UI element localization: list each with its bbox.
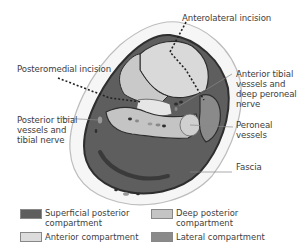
legend-label-deep-posterior-2: compartment [176, 218, 233, 228]
legend-swatch-superficial-posterior [20, 209, 42, 219]
label-anterior-tibial-4: nerve [236, 99, 260, 109]
label-peroneal-1: Peroneal [236, 120, 272, 130]
label-anterior-tibial-2: vessels and [236, 79, 285, 89]
label-anterolateral-incision: Anterolateral incision [182, 13, 271, 23]
legend-label-anterior: Anterior compartment [45, 232, 138, 242]
label-posterior-tibial-2: vessels and [17, 125, 66, 135]
label-anterior-tibial-1: Anterior tibial [236, 69, 293, 79]
label-anterior-tibial-3: deep peroneal [236, 89, 297, 99]
label-peroneal-2: vessels [236, 130, 267, 140]
label-posterior-tibial-1: Posterior tibial [17, 115, 77, 125]
legend-label-lateral: Lateral compartment [176, 232, 265, 242]
legend-label-superficial-posterior-1: Superficial posterior [45, 208, 129, 218]
legend-swatch-anterior [20, 232, 42, 242]
label-posteromedial-incision: Posteromedial incision [17, 64, 111, 74]
legend-label-deep-posterior-1: Deep posterior [176, 208, 238, 218]
label-fascia: Fascia [236, 162, 262, 172]
label-posterior-tibial-3: tibial nerve [17, 135, 64, 145]
legend-swatch-deep-posterior [151, 209, 173, 219]
legend-swatch-lateral [151, 232, 173, 242]
legend-label-superficial-posterior-2: compartment [45, 218, 102, 228]
